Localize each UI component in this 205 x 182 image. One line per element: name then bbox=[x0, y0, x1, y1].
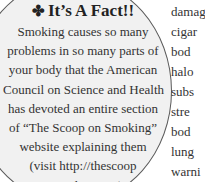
main-text-line: warni bbox=[171, 162, 205, 182]
main-text-line: stre bbox=[171, 102, 205, 122]
club-bullet-icon: ✤ bbox=[32, 3, 45, 19]
sidebar-line: your body that the American bbox=[3, 60, 163, 79]
main-text-column: damag cigar bod halo subs stre bod lung … bbox=[171, 0, 205, 182]
sidebar-line: (visit http://thescoop bbox=[3, 156, 163, 175]
main-text-line: bod bbox=[171, 122, 205, 142]
sidebar-line: website explaining them bbox=[3, 137, 163, 156]
sidebar-line: onsmoking.org). bbox=[3, 176, 163, 182]
sidebar-line: of “The Scoop on Smoking” bbox=[3, 118, 163, 137]
fact-sidebar: ✤It’s A Fact!! Smoking causes so many pr… bbox=[3, 0, 163, 182]
main-text-line: bod bbox=[171, 42, 205, 62]
main-text-line: halo bbox=[171, 62, 205, 82]
sidebar-line: problems in so many parts of bbox=[3, 41, 163, 60]
main-text-line: cigar bbox=[171, 22, 205, 42]
main-text-line: lung bbox=[171, 142, 205, 162]
sidebar-line: Council on Science and Health bbox=[3, 80, 163, 99]
sidebar-line: has devoted an entire section bbox=[3, 99, 163, 118]
main-text-line: damag bbox=[171, 2, 205, 22]
sidebar-title: ✤It’s A Fact!! bbox=[3, 1, 163, 21]
sidebar-line: Smoking causes so many bbox=[3, 22, 163, 41]
main-text-line: subs bbox=[171, 82, 205, 102]
document-page: ✤It’s A Fact!! Smoking causes so many pr… bbox=[0, 0, 205, 182]
sidebar-title-text: It’s A Fact!! bbox=[48, 1, 134, 20]
